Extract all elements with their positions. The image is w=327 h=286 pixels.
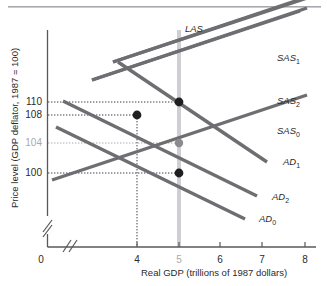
x-tick-marks (137, 242, 305, 247)
figure-container: 110 108 104 100 0 4 5 6 7 8 Real GDP (tr… (0, 0, 327, 286)
ad1-curve-label: AD1 (283, 157, 300, 169)
x-axis-title: Real GDP (trillions of 1987 dollars) (141, 268, 287, 278)
x-tick-label-4: 4 (130, 255, 144, 265)
y-axis-title: Price level (GDP deflator, 1987 = 100) (10, 48, 20, 208)
ad1-curve (118, 62, 267, 162)
sas2-label-sub: 2 (296, 101, 300, 108)
sas0-curve-label: SAS0 (277, 126, 300, 138)
ad0-label-sub: 0 (272, 219, 276, 226)
point-5-110 (175, 98, 184, 107)
sas2-label-base: SAS (277, 95, 296, 106)
point-5-104 (175, 139, 183, 147)
point-4-108 (133, 111, 142, 120)
sas1-label-sub: 1 (296, 58, 300, 65)
x-tick-label-0: 0 (34, 255, 48, 265)
sas0-label-sub: 0 (296, 131, 300, 138)
sas1-curve-visible (113, 0, 300, 62)
sas2-curve-visible (92, 11, 300, 80)
ad1-label-base: AD (283, 156, 296, 167)
x-tick-label-7: 7 (255, 255, 269, 265)
x-tick-label-8: 8 (298, 255, 312, 265)
sas2-curve-label: SAS2 (277, 96, 300, 108)
ad2-curve (63, 101, 257, 196)
las-curve-label: LAS (185, 24, 203, 34)
ad2-label-base: AD (272, 191, 285, 202)
x-tick-label-5: 5 (172, 255, 186, 265)
ad2-label-sub: 2 (285, 197, 289, 204)
ad0-label-base: AD (259, 213, 272, 224)
sas0-label-base: SAS (277, 125, 296, 136)
ad0-curve-label: AD0 (259, 214, 276, 226)
ad2-curve-label: AD2 (272, 192, 289, 204)
x-tick-label-6: 6 (213, 255, 227, 265)
sas1-label-base: SAS (277, 52, 296, 63)
ad-as-chart-svg (0, 0, 327, 286)
point-5-100 (175, 169, 184, 178)
ad1-label-sub: 1 (296, 162, 300, 169)
sas1-curve-label: SAS1 (277, 53, 300, 65)
